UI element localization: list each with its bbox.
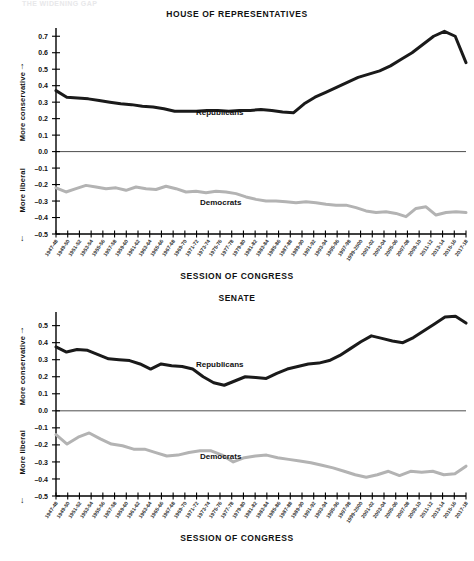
y-axis-label-conservative-house: More conservative	[18, 72, 27, 141]
svg-text:0.5: 0.5	[38, 66, 48, 73]
series-line-republicans	[56, 316, 466, 385]
chart-panel-house: HOUSE OF REPRESENTATIVES ↑ More conserva…	[0, 8, 474, 286]
svg-text:–0.3: –0.3	[34, 198, 48, 205]
svg-text:0.4: 0.4	[38, 82, 48, 89]
svg-text:0.6: 0.6	[38, 49, 48, 56]
svg-text:0.2: 0.2	[38, 115, 48, 122]
svg-text:–0.1: –0.1	[34, 424, 48, 431]
series-label-republicans-house: Republicans	[196, 108, 244, 117]
up-arrow-icon-senate: ↑	[20, 326, 25, 335]
series-label-democrats-house: Democrats	[200, 198, 241, 207]
svg-text:0.1: 0.1	[38, 132, 48, 139]
y-axis-label-liberal-house: More liberal	[18, 168, 27, 213]
chart-page: THE WIDENING GAP HOUSE OF REPRESENTATIVE…	[0, 0, 474, 561]
svg-text:0.2: 0.2	[38, 373, 48, 380]
svg-text:–0.2: –0.2	[34, 441, 48, 448]
chart-footer-house: SESSION OF CONGRESS	[0, 270, 474, 282]
series-label-republicans-senate: Republicans	[196, 360, 244, 369]
y-axis-label-conservative-senate: More conservative	[18, 336, 27, 405]
svg-text:–0.4: –0.4	[34, 476, 48, 483]
down-arrow-icon-senate: ↓	[20, 496, 25, 505]
svg-text:–0.3: –0.3	[34, 459, 48, 466]
svg-text:0.5: 0.5	[38, 322, 48, 329]
chart-panel-senate: SENATE ↑ More conservative More liberal …	[0, 292, 474, 554]
chart-svg-house: 0.70.60.50.40.30.20.10.0–0.1–0.2–0.3–0.4…	[0, 20, 474, 282]
svg-text:–0.5: –0.5	[34, 493, 48, 500]
down-arrow-icon-house: ↓	[20, 234, 25, 243]
svg-text:0.3: 0.3	[38, 99, 48, 106]
page-header-text: THE WIDENING GAP	[0, 0, 474, 7]
chart-title-house: HOUSE OF REPRESENTATIVES	[0, 8, 474, 20]
series-line-democrats	[56, 185, 466, 216]
plot-area-house: ↑ More conservative More liberal ↓ Repub…	[0, 20, 474, 282]
svg-text:–0.5: –0.5	[34, 231, 48, 238]
svg-text:–0.4: –0.4	[34, 214, 48, 221]
chart-footer-senate: SESSION OF CONGRESS	[0, 532, 474, 544]
series-line-democrats	[56, 433, 466, 477]
plot-area-senate: ↑ More conservative More liberal ↓ Repub…	[0, 304, 474, 544]
y-axis-label-liberal-senate: More liberal	[18, 430, 27, 475]
svg-text:0.3: 0.3	[38, 356, 48, 363]
chart-svg-senate: 0.50.40.30.20.10.0–0.1–0.2–0.3–0.4–0.519…	[0, 304, 474, 544]
svg-text:0.4: 0.4	[38, 339, 48, 346]
svg-text:0.1: 0.1	[38, 390, 48, 397]
svg-text:–0.2: –0.2	[34, 181, 48, 188]
chart-title-senate: SENATE	[0, 292, 474, 304]
series-line-republicans	[56, 31, 466, 113]
svg-text:0.0: 0.0	[38, 407, 48, 414]
up-arrow-icon-house: ↑	[20, 62, 25, 71]
svg-text:0.7: 0.7	[38, 33, 48, 40]
series-label-democrats-senate: Democrats	[200, 452, 241, 461]
svg-text:–0.1: –0.1	[34, 165, 48, 172]
svg-text:0.0: 0.0	[38, 148, 48, 155]
